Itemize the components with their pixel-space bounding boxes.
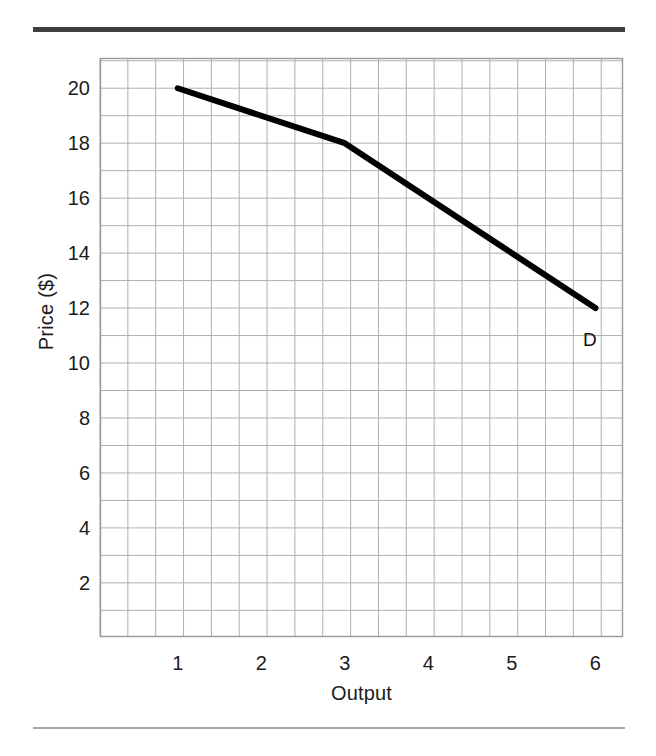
x-axis-tick-label: 5 xyxy=(492,653,532,673)
line-chart-svg xyxy=(0,0,656,756)
x-axis-tick-label: 4 xyxy=(408,653,448,673)
figure-container: 2468101214161820 123456 D Price ($) Outp… xyxy=(0,0,656,756)
x-axis-tick-label: 1 xyxy=(158,653,198,673)
y-axis-tick-label: 2 xyxy=(34,573,90,593)
y-axis-tick-label: 6 xyxy=(34,463,90,483)
x-axis-title: Output xyxy=(100,682,623,705)
y-axis-tick-label: 8 xyxy=(34,408,90,428)
y-axis-tick-label: 4 xyxy=(34,518,90,538)
y-axis-tick-label: 20 xyxy=(34,78,90,98)
x-axis-tick-label: 2 xyxy=(241,653,281,673)
x-axis-tick-label: 3 xyxy=(325,653,365,673)
demand-curve-label: D xyxy=(583,330,597,349)
plot-border xyxy=(101,59,623,637)
y-axis-tick-label: 16 xyxy=(34,188,90,208)
x-axis-tick-label: 6 xyxy=(575,653,615,673)
plot-area-wrapper: 2468101214161820 123456 D Price ($) Outp… xyxy=(0,0,656,756)
gridlines-group xyxy=(100,58,623,637)
y-axis-title: Price ($) xyxy=(35,252,58,372)
y-axis-tick-label: 18 xyxy=(34,133,90,153)
